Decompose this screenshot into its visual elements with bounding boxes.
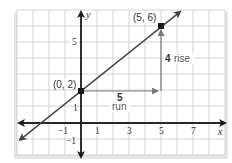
x-tick-1: 1	[95, 126, 100, 136]
coordinate-graph: (0, 2) (5, 6) 4 rise 5 run y x −1 1 3 5 …	[0, 0, 232, 163]
x-tick-5: 5	[159, 126, 164, 136]
x-tick-3: 3	[127, 126, 132, 136]
point-0-2	[78, 88, 84, 94]
x-tick-7: 7	[191, 126, 196, 136]
point-5-6	[158, 23, 164, 29]
run-text: run	[112, 101, 126, 112]
rise-value: 4	[165, 53, 171, 64]
point-a-label: (0, 2)	[53, 79, 76, 90]
rise-text: rise	[174, 53, 191, 64]
x-tick-minus1: −1	[58, 126, 68, 136]
y-tick-5: 5	[72, 37, 77, 47]
y-tick-1: 1	[73, 103, 78, 113]
y-tick-minus1: −1	[66, 136, 76, 146]
y-axis-label: y	[85, 9, 91, 20]
x-axis-label: x	[217, 126, 223, 137]
point-b-label: (5, 6)	[133, 12, 156, 23]
